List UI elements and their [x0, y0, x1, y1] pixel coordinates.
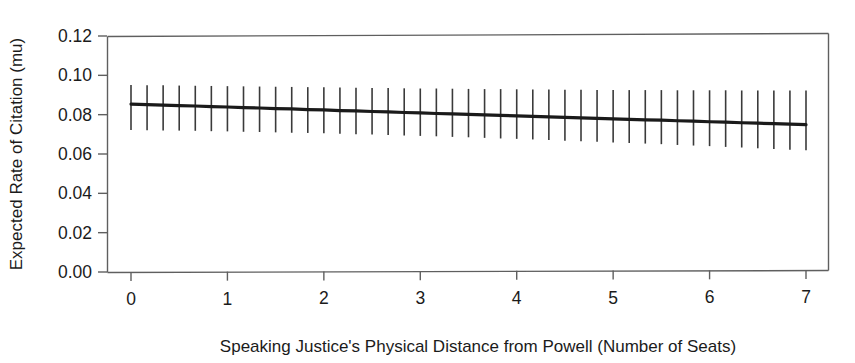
- y-tick-label: 0.12: [58, 26, 92, 46]
- x-tick-label: 2: [319, 288, 329, 308]
- y-tick-label: 0.04: [58, 183, 92, 203]
- y-tick-label: 0.08: [58, 105, 92, 125]
- y-tick-label: 0.02: [58, 223, 92, 243]
- x-tick-label: 5: [608, 288, 618, 308]
- y-tick-label: 0.06: [58, 144, 92, 164]
- x-tick-label: 1: [223, 289, 233, 309]
- x-tick-label: 4: [512, 288, 522, 308]
- x-tick-label: 0: [126, 289, 136, 309]
- x-axis-label: Speaking Justice's Physical Distance fro…: [220, 337, 736, 356]
- x-tick-label: 7: [801, 287, 811, 307]
- y-axis-label: Expected Rate of Citation (mu): [7, 38, 26, 270]
- y-tick-label: 0.00: [58, 262, 92, 282]
- citation-rate-chart: 0.000.020.040.060.080.100.12 01234567 Sp…: [0, 0, 855, 363]
- x-tick-label: 6: [705, 287, 715, 307]
- x-tick-label: 3: [415, 288, 425, 308]
- y-tick-label: 0.10: [58, 65, 92, 85]
